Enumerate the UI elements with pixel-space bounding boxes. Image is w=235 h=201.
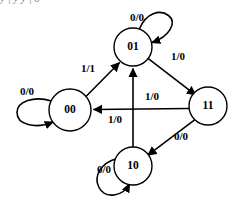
transition-10-to-01-label: 1/0 [108,113,123,125]
state-node-01-label: 01 [127,40,139,52]
transition-11-to-00-label: 1/0 [145,90,160,102]
transition-11-to-10: 0/0 [148,119,196,155]
transition-11-to-10-label: 0/0 [174,130,189,142]
transition-01-to-11: 1/0 [148,50,196,96]
transition-10-to-01: 1/0 [108,69,133,148]
self-loop-00: 0/0 [17,85,53,126]
state-node-01[interactable]: 01 [114,28,152,66]
state-node-11-label: 11 [203,99,214,111]
transition-00-to-01-label: 1/1 [81,62,95,74]
self-loop-00-label: 0/0 [20,85,35,97]
transition-11-to-00: 1/0 [94,90,190,110]
self-loop-10-label: 0/0 [97,163,112,175]
self-loop-01-label: 0/0 [130,11,145,23]
state-node-11[interactable]: 11 [189,87,227,125]
transition-00-to-01: 1/1 [81,62,120,97]
state-diagram-figure: y | y y | 0 1/1 1/0 1/0 [0,0,235,201]
state-node-00-label: 00 [64,103,76,115]
self-loop-00-path [17,99,53,126]
transition-11-to-10-line [148,119,196,155]
state-node-10[interactable]: 10 [114,147,152,185]
state-node-10-label: 10 [127,159,139,171]
transition-01-to-11-label: 1/0 [171,50,186,62]
transition-11-to-00-line [94,109,190,110]
state-node-00[interactable]: 00 [49,89,91,131]
state-diagram-canvas: 1/1 1/0 1/0 0/0 1/0 0/0 [0,0,235,201]
